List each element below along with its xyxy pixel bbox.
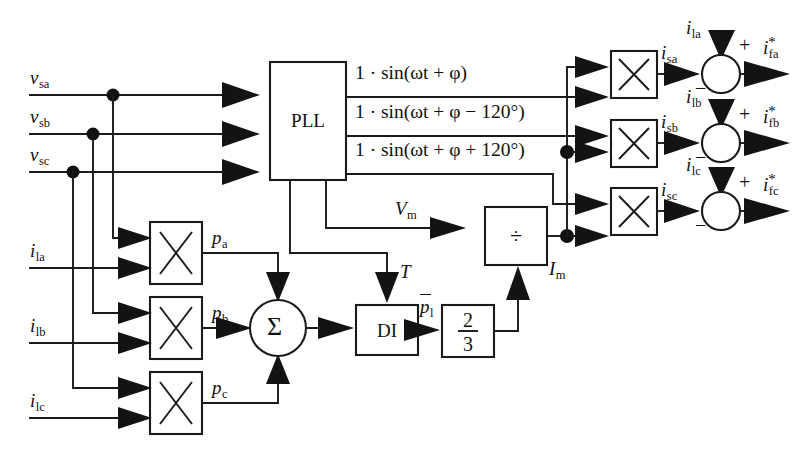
input-label-vsc: vsc bbox=[30, 145, 49, 164]
pll-block-label: PLL bbox=[270, 111, 346, 130]
signal-label-pc: pc bbox=[212, 378, 227, 397]
summer-c-circle bbox=[702, 192, 740, 230]
divider-block-label: ÷ bbox=[485, 225, 547, 247]
signal-label-isc: isc bbox=[661, 180, 677, 199]
arrowhead-pll-in-c bbox=[222, 159, 260, 185]
pll-output-equation-b: 1 · sin(ωt + φ − 120°) bbox=[355, 102, 525, 122]
di-block-label: DI bbox=[356, 321, 418, 340]
output-label-ifb: i*fb bbox=[763, 107, 786, 126]
arrowhead-divider-bottom bbox=[506, 266, 530, 300]
output-label-ifa: i*fa bbox=[763, 38, 786, 57]
arrowhead-output-ifa bbox=[744, 61, 790, 87]
summer-a-plus-sign: + bbox=[739, 35, 750, 55]
arrowhead-sigma-bottom bbox=[266, 354, 290, 384]
summer-b-plus-sign: + bbox=[739, 104, 750, 124]
signal-label-isb: isb bbox=[661, 112, 677, 131]
input-label-vsb: vsb bbox=[30, 107, 50, 126]
pll-to-di-T-wire bbox=[290, 180, 387, 272]
right-multiplier-input-arrowheads bbox=[575, 56, 609, 247]
left-multiplier-input-arrowheads bbox=[118, 227, 152, 429]
signal-label-T: T bbox=[400, 262, 411, 281]
arrowhead-output-ifb bbox=[744, 130, 790, 156]
arrowhead-di-in bbox=[318, 317, 354, 339]
signal-label-Vm: Vm bbox=[395, 199, 416, 218]
twothirds-to-divider-wire bbox=[494, 300, 518, 331]
right-multiplier-blocks bbox=[611, 51, 657, 235]
arrowhead-pll-in-b bbox=[222, 121, 260, 147]
input-label-vsa: vsa bbox=[30, 68, 49, 87]
pll-output-equation-c: 1 · sin(ωt + φ + 120°) bbox=[355, 140, 525, 160]
voltage-input-wires bbox=[30, 95, 250, 172]
signal-label-pa: pa bbox=[212, 228, 227, 247]
arrowhead-pll-in-a bbox=[222, 82, 260, 108]
block-diagram-canvas: vsa vsb vsc ila ilb ilc PLL 1 · sin(ωt +… bbox=[0, 0, 805, 475]
summer-a-circle bbox=[702, 55, 740, 93]
signal-label-pb: pb bbox=[212, 303, 228, 322]
left-multiplier-blocks bbox=[150, 222, 202, 434]
summer-c-plus-sign: + bbox=[739, 172, 750, 192]
arrowhead-sigma-top bbox=[266, 272, 290, 302]
summer-b-minus-sign: − bbox=[695, 147, 706, 167]
summer-a-top-input-label: ila bbox=[686, 18, 700, 37]
input-label-ilc: ilc bbox=[30, 391, 44, 410]
arrowhead-di-top-T bbox=[375, 272, 399, 303]
arrowhead-divider-in-vm bbox=[430, 217, 466, 239]
twothirds-denominator: 3 bbox=[442, 334, 494, 354]
pll-output-equation-a: 1 · sin(ωt + φ) bbox=[355, 63, 467, 83]
summer-b-circle bbox=[702, 124, 740, 162]
input-label-ilb: ilb bbox=[30, 316, 45, 335]
signal-label-Im: Im bbox=[549, 259, 565, 278]
signal-label-pl-bar: pl bbox=[420, 297, 433, 316]
sigma-symbol: Σ bbox=[267, 314, 282, 340]
input-label-ila: ila bbox=[30, 241, 44, 260]
twothirds-numerator: 2 bbox=[442, 310, 494, 330]
summer-a-minus-sign: − bbox=[695, 78, 706, 98]
summer-c-minus-sign: − bbox=[695, 215, 706, 235]
arrowhead-output-ifc bbox=[744, 198, 790, 224]
signal-label-isa: isa bbox=[661, 43, 677, 62]
output-label-ifc: i*fc bbox=[763, 175, 786, 194]
